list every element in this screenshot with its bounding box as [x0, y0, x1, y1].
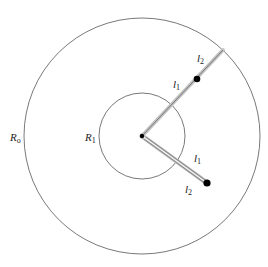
- two-link-arm-diagram: Ro R1 l1 l2 l1 l2: [0, 0, 268, 267]
- upper-l2-label: l2: [197, 52, 204, 66]
- upper-arm: [142, 50, 223, 136]
- upper-l1-label: l1: [173, 78, 180, 92]
- lower-l2-label: l2: [185, 183, 192, 197]
- outer-radius-label: Ro: [9, 131, 21, 145]
- center-point: [140, 134, 144, 138]
- inner-radius-label: R1: [84, 131, 96, 145]
- lower-end-dot: [203, 179, 210, 186]
- upper-joint-dot: [194, 76, 201, 83]
- lower-l1-label: l1: [194, 152, 201, 166]
